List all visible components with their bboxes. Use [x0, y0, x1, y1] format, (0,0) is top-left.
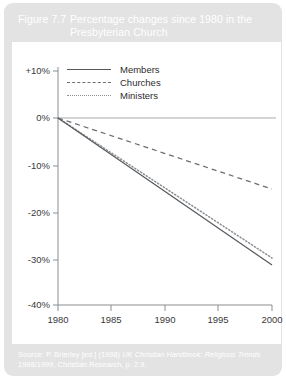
legend-swatch-dashed-icon [67, 78, 111, 87]
chart-legend: Members Churches Ministers [67, 63, 161, 102]
x-axis-label-1985: 1985 [96, 314, 126, 325]
source-suffix: 1998/1999, Christian Research, p. 2.9. [18, 360, 146, 369]
y-axis-label-minus40: -40% [12, 299, 50, 310]
series-line-members [58, 118, 272, 265]
x-axis-label-2000: 2000 [257, 314, 286, 325]
y-axis-label-minus30: -30% [12, 254, 50, 265]
legend-label-ministers: Ministers [120, 90, 158, 101]
source-title-italic: UK Christian Handbook: Religious Trends [122, 350, 260, 359]
chart-plot-panel: Members Churches Ministers +10% 0% -10% … [12, 42, 281, 344]
legend-item-members: Members [67, 63, 161, 76]
x-axis-label-1980: 1980 [43, 314, 73, 325]
series-line-ministers [58, 118, 272, 258]
y-axis-label-zero: 0% [12, 112, 50, 123]
legend-swatch-solid-icon [67, 65, 111, 74]
legend-label-members: Members [120, 64, 160, 75]
y-axis-label-minus20: -20% [12, 207, 50, 218]
series-line-churches [58, 118, 272, 189]
x-axis-label-1995: 1995 [203, 314, 233, 325]
legend-item-churches: Churches [67, 76, 161, 89]
legend-label-churches: Churches [120, 77, 161, 88]
y-axis-label-minus10: -10% [12, 160, 50, 171]
y-axis-label-plus10: +10% [12, 65, 50, 76]
figure-header: Figure 7.7Percentage changes since 1980 … [18, 13, 270, 39]
figure-title-line1: Percentage changes since 1980 in the [70, 13, 252, 25]
figure-title-line2: Presbyterian Church [70, 26, 270, 39]
source-note: Source: P. Brierley [ed.] (1998) UK Chri… [18, 350, 274, 369]
figure-card: Figure 7.7Percentage changes since 1980 … [4, 3, 282, 376]
figure-number: Figure 7.7 [18, 13, 70, 26]
source-prefix: Source: P. Brierley [ed.] (1998) [18, 350, 122, 359]
legend-item-ministers: Ministers [67, 89, 161, 102]
legend-swatch-dotted-icon [67, 91, 111, 100]
x-axis-label-1990: 1990 [150, 314, 180, 325]
